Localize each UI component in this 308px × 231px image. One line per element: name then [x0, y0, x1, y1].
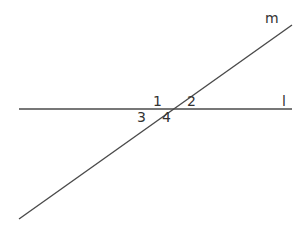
- intersecting-lines-diagram: l m 1 2 3 4: [0, 0, 308, 231]
- line-m: [19, 25, 292, 219]
- angle-2-label: 2: [187, 93, 196, 109]
- line-l-label: l: [282, 93, 286, 109]
- line-m-label: m: [265, 10, 279, 26]
- angle-3-label: 3: [137, 109, 146, 125]
- angle-1-label: 1: [153, 93, 162, 109]
- angle-4-label: 4: [162, 109, 171, 125]
